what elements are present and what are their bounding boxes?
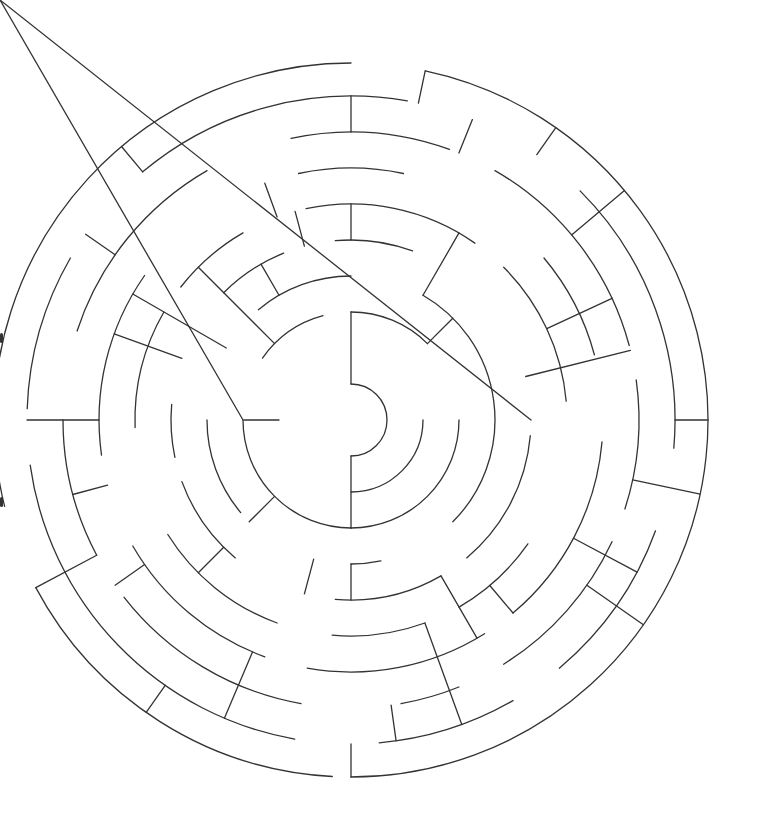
maze-svg	[0, 0, 758, 831]
maze-radial-wall	[574, 538, 638, 572]
maze-radial-wall	[36, 555, 97, 587]
maze-arc-wall	[351, 312, 427, 344]
maze-radial-wall	[547, 298, 612, 328]
maze-arc-wall	[291, 132, 449, 149]
maze-arc-wall	[27, 258, 70, 409]
maze-radial-wall	[441, 576, 477, 638]
edge-mark-upper	[0, 333, 3, 343]
maze-arc-wall	[258, 276, 351, 310]
maze-radial-wall	[295, 211, 304, 246]
maze-arc-wall	[207, 420, 241, 513]
maze-arc-wall	[263, 316, 324, 358]
maze-radial-wall	[73, 485, 108, 494]
maze-radial-wall	[261, 264, 279, 295]
maze-radial-wall	[587, 585, 644, 625]
maze-arc-wall	[77, 171, 207, 331]
maze-arc-wall	[307, 634, 484, 672]
maze-arc-wall	[171, 404, 175, 457]
maze-arc-wall	[99, 276, 145, 456]
maze-radial-wall	[537, 128, 556, 155]
maze-arc-wall	[306, 204, 475, 243]
maze-arc-wall	[504, 267, 567, 401]
maze-arc-wall	[423, 295, 495, 522]
maze-arc-wall	[143, 96, 408, 172]
maze-arc-wall	[351, 71, 708, 777]
maze-radial-wall	[425, 623, 462, 725]
maze-arc-wall	[351, 561, 381, 564]
maze-arc-wall	[513, 442, 602, 613]
maze-arc-wall	[351, 420, 423, 492]
maze-arc-wall	[63, 420, 97, 555]
maze-radial-wall	[526, 350, 631, 376]
maze-arc-wall	[124, 597, 301, 703]
maze-radial-wall	[0, 0, 243, 420]
maze-arc-wall	[504, 542, 612, 665]
maze-arc-wall	[351, 420, 459, 528]
maze-arc-wall	[30, 465, 295, 739]
maze-arc-wall	[401, 687, 459, 704]
maze-radial-wall	[86, 234, 116, 255]
maze-radial-wall	[146, 685, 165, 712]
maze-radial-wall	[133, 294, 227, 348]
maze-arc-wall	[181, 233, 243, 287]
maze-radial-wall	[459, 120, 473, 153]
maze-arc-wall	[467, 436, 531, 558]
maze-radial-wall	[423, 233, 459, 295]
maze-arc-wall	[351, 384, 387, 456]
maze-radial-wall	[122, 147, 143, 172]
maze-radial-wall	[249, 496, 274, 521]
maze-radial-wall	[114, 334, 182, 359]
maze-arc-wall	[299, 168, 404, 174]
maze-radial-wall	[427, 318, 452, 343]
maze-radial-wall	[265, 183, 277, 217]
maze-arc-wall	[0, 63, 351, 451]
maze-radial-wall	[391, 705, 396, 741]
maze-radial-wall	[0, 0, 531, 420]
maze-radial-wall	[633, 480, 701, 494]
maze-arc-wall	[332, 623, 425, 636]
edge-mark-lower	[0, 497, 3, 507]
maze-arc-wall	[459, 544, 528, 607]
maze-radial-wall	[490, 586, 513, 614]
maze-arc-wall	[379, 701, 513, 743]
maze-radial-wall	[304, 559, 313, 594]
maze-arc-wall	[625, 380, 639, 509]
maze-arc-wall	[135, 312, 164, 428]
maze-radial-wall	[572, 191, 625, 235]
maze-arc-wall	[335, 240, 412, 251]
maze-arc-wall	[133, 546, 265, 657]
maze-arc-wall	[580, 191, 675, 448]
maze-radial-wall	[418, 71, 425, 103]
maze-arc-wall	[36, 588, 333, 777]
maze-radial-wall	[115, 565, 145, 586]
maze-radial-wall	[224, 652, 252, 718]
maze-arc-wall	[495, 171, 629, 346]
maze-radial-wall	[198, 547, 223, 572]
